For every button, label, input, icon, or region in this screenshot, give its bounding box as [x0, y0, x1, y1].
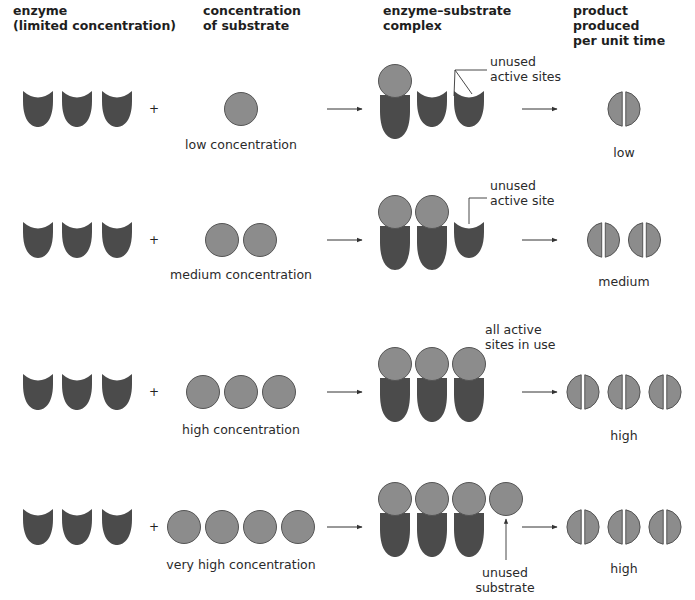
- enzyme-icon: [62, 91, 92, 127]
- bound-substrate-icon: [379, 348, 412, 381]
- bound-enzyme-icon: [380, 95, 410, 139]
- leader-line: [455, 70, 472, 94]
- annotation-line1: unused: [475, 565, 534, 580]
- product-half-icon: [667, 510, 681, 544]
- product-half-icon: [608, 375, 622, 409]
- product-half-icon: [605, 223, 619, 257]
- product-half-icon: [649, 375, 663, 409]
- substrate-icon: [244, 224, 277, 257]
- product-half-icon: [649, 510, 663, 544]
- product-half-icon: [626, 92, 640, 126]
- annotation-line2: sites in use: [485, 337, 556, 352]
- enzyme-icon: [23, 222, 53, 258]
- enzyme-substrate-diagram: ++++: [0, 0, 695, 600]
- substrate-icon: [263, 376, 296, 409]
- substrate-icon: [225, 376, 258, 409]
- annotation-line2: substrate: [475, 580, 534, 595]
- enzyme-icon: [62, 222, 92, 258]
- bound-enzyme-icon: [417, 226, 447, 270]
- plus-icon: +: [149, 520, 159, 534]
- substrate-label-row1: low concentration: [185, 137, 297, 152]
- product-half-icon: [585, 375, 599, 409]
- enzyme-icon: [454, 222, 484, 258]
- substrate-label-row3: high concentration: [182, 422, 300, 437]
- bound-substrate-icon: [379, 196, 412, 229]
- enzyme-icon: [102, 91, 132, 127]
- bound-substrate-icon: [379, 483, 412, 516]
- annotation-line1: unused: [490, 178, 555, 193]
- enzyme-icon: [454, 91, 484, 127]
- bound-enzyme-icon: [380, 513, 410, 557]
- product-half-icon: [628, 223, 642, 257]
- bound-substrate-icon: [379, 65, 412, 98]
- bound-substrate-icon: [453, 483, 486, 516]
- product-half-icon: [587, 223, 601, 257]
- substrate-icon: [187, 376, 220, 409]
- plus-icon: +: [149, 233, 159, 247]
- annotation-unused-active-sites: unused active sites: [490, 54, 561, 84]
- product-half-icon: [608, 92, 622, 126]
- enzyme-icon: [102, 509, 132, 545]
- bound-substrate-icon: [453, 348, 486, 381]
- unused-substrate-icon: [490, 483, 523, 516]
- annotation-line1: all active: [485, 322, 556, 337]
- substrate-icon: [282, 511, 315, 544]
- enzyme-icon: [23, 374, 53, 410]
- enzyme-icon: [23, 509, 53, 545]
- enzyme-icon: [62, 509, 92, 545]
- product-half-icon: [608, 510, 622, 544]
- enzyme-icon: [23, 91, 53, 127]
- bound-enzyme-icon: [380, 378, 410, 422]
- product-half-icon: [567, 375, 581, 409]
- substrate-icon: [168, 511, 201, 544]
- plus-icon: +: [149, 102, 159, 116]
- bound-substrate-icon: [416, 196, 449, 229]
- plus-icon: +: [149, 385, 159, 399]
- bound-substrate-icon: [416, 348, 449, 381]
- substrate-icon: [225, 93, 258, 126]
- product-half-icon: [626, 375, 640, 409]
- product-label-row1: low: [613, 145, 634, 160]
- product-half-icon: [585, 510, 599, 544]
- substrate-icon: [206, 224, 239, 257]
- product-label-row2: medium: [598, 274, 649, 289]
- product-half-icon: [646, 223, 660, 257]
- product-half-icon: [667, 375, 681, 409]
- annotation-unused-substrate: unused substrate: [475, 565, 534, 595]
- enzyme-icon: [62, 374, 92, 410]
- substrate-label-row4: very high concentration: [166, 557, 315, 572]
- annotation-line2: active sites: [490, 69, 561, 84]
- leader-line: [469, 198, 487, 224]
- bound-enzyme-icon: [454, 378, 484, 422]
- annotation-all-active-sites-in-use: all active sites in use: [485, 322, 556, 352]
- enzyme-icon: [102, 374, 132, 410]
- product-label-row3: high: [610, 428, 637, 443]
- annotation-unused-active-site: unused active site: [490, 178, 555, 208]
- product-half-icon: [567, 510, 581, 544]
- substrate-label-row2: medium concentration: [170, 267, 312, 282]
- substrate-icon: [244, 511, 277, 544]
- bound-substrate-icon: [416, 483, 449, 516]
- annotation-line2: active site: [490, 193, 555, 208]
- enzyme-icon: [102, 222, 132, 258]
- annotation-line1: unused: [490, 54, 561, 69]
- product-label-row4: high: [610, 561, 637, 576]
- enzyme-icon: [417, 91, 447, 127]
- bound-enzyme-icon: [417, 513, 447, 557]
- bound-enzyme-icon: [417, 378, 447, 422]
- product-half-icon: [626, 510, 640, 544]
- bound-enzyme-icon: [380, 226, 410, 270]
- bound-enzyme-icon: [454, 513, 484, 557]
- substrate-icon: [206, 511, 239, 544]
